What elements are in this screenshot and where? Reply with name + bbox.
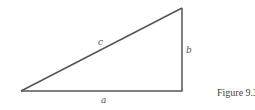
label-b: b	[186, 45, 192, 55]
side-c-hypotenuse	[21, 8, 182, 91]
figure-caption: Figure 9.3	[217, 87, 255, 98]
label-c: c	[98, 37, 103, 47]
label-a: a	[101, 95, 106, 105]
